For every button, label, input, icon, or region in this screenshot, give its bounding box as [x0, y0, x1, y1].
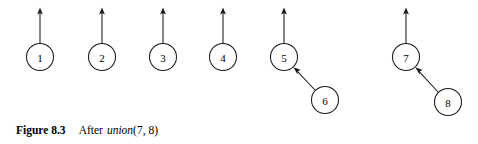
- root-pointer-3: [160, 8, 166, 44]
- parent-edge-8-to-7: [415, 67, 438, 92]
- node-4[interactable]: 4: [210, 44, 237, 71]
- arrow-head-icon: [415, 67, 422, 74]
- node-2[interactable]: 2: [89, 44, 116, 71]
- root-pointer-group: [37, 8, 409, 44]
- node-1-label: 1: [37, 52, 43, 64]
- node-group: 1 2 3 4 5 6 7: [27, 44, 462, 116]
- figure-caption-operation: union: [107, 124, 133, 136]
- root-pointer-5: [281, 8, 287, 44]
- node-1[interactable]: 1: [27, 44, 54, 71]
- parent-edge-group: [293, 67, 438, 92]
- figure-caption-label: Figure 8.3: [16, 124, 66, 136]
- root-pointer-7: [403, 8, 409, 44]
- figure-caption-arguments: (7, 8): [133, 124, 158, 136]
- node-6-label: 6: [322, 95, 328, 107]
- node-7[interactable]: 7: [393, 44, 420, 71]
- root-pointer-4: [220, 8, 226, 44]
- disjoint-set-forest-diagram: 1 2 3 4 5 6 7: [0, 0, 478, 120]
- node-8-label: 8: [445, 97, 451, 109]
- node-5[interactable]: 5: [271, 44, 298, 71]
- node-5-label: 5: [281, 52, 287, 64]
- node-3-label: 3: [160, 52, 166, 64]
- node-6[interactable]: 6: [312, 87, 339, 114]
- figure-caption: Figure 8.3Afterunion(7, 8): [16, 121, 456, 139]
- figure-caption-text: After: [79, 124, 103, 136]
- root-pointer-1: [37, 8, 43, 44]
- node-4-label: 4: [220, 52, 226, 64]
- node-8[interactable]: 8: [435, 89, 462, 116]
- parent-edge-6-to-5: [293, 67, 315, 90]
- node-7-label: 7: [403, 52, 409, 64]
- node-2-label: 2: [99, 52, 105, 64]
- node-3[interactable]: 3: [150, 44, 177, 71]
- figure-8-3: 1 2 3 4 5 6 7: [0, 0, 478, 144]
- root-pointer-2: [99, 8, 105, 44]
